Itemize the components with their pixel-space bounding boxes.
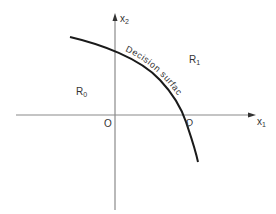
region-r1-label: R1	[189, 55, 200, 66]
origin-label: O	[104, 119, 112, 129]
region-r0-label: R0	[76, 87, 87, 98]
decision-surface-label: Decision surface	[0, 0, 185, 97]
diagram-canvas: Decision surface	[0, 0, 276, 214]
x2-axis-arrowhead-icon	[113, 13, 118, 21]
x2-axis-label: x2	[120, 14, 129, 25]
decision-surface-diagram: Decision surface x2 x1 O D R0 R1	[0, 0, 276, 214]
x1-axis-label: x1	[257, 117, 266, 128]
x1-axis-arrowhead-icon	[248, 113, 256, 118]
